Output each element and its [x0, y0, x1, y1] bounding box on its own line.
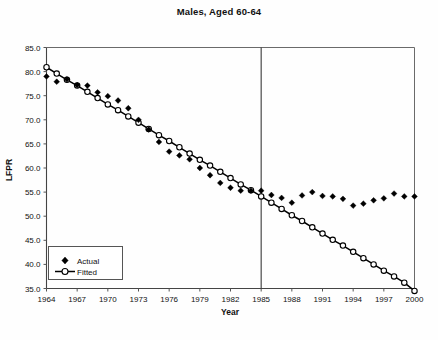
- actual-data-point: [54, 79, 60, 85]
- x-axis-title: Year: [221, 307, 240, 317]
- x-tick-label: 1967: [68, 295, 86, 304]
- x-tick-label: 1985: [252, 295, 270, 304]
- fitted-data-point: [258, 194, 263, 199]
- actual-data-point: [381, 195, 387, 201]
- fitted-data-point: [105, 102, 110, 107]
- y-tick-label: 65.0: [25, 140, 41, 149]
- actual-data-point: [330, 194, 336, 200]
- actual-data-point: [299, 193, 305, 199]
- y-tick-label: 85.0: [25, 44, 41, 53]
- actual-data-point: [156, 139, 162, 145]
- actual-data-point: [44, 74, 50, 80]
- fitted-data-point: [350, 249, 355, 254]
- y-tick-label: 75.0: [25, 92, 41, 101]
- fitted-data-point: [289, 213, 294, 218]
- fitted-data-point: [197, 157, 202, 162]
- chart-container: Males, Aged 60-64 35.040.045.050.055.060…: [0, 0, 438, 340]
- actual-data-point: [268, 192, 274, 198]
- actual-data-point: [187, 156, 193, 162]
- fitted-data-point: [187, 151, 192, 156]
- x-tick-label: 1991: [314, 295, 332, 304]
- fitted-data-point: [177, 145, 182, 150]
- fitted-data-point: [299, 218, 304, 223]
- chart-plot-area: 35.040.045.050.055.060.065.070.075.080.0…: [0, 0, 438, 340]
- legend-label-fitted: Fitted: [77, 268, 97, 277]
- actual-data-point: [228, 185, 234, 191]
- actual-data-point: [371, 197, 377, 203]
- x-tick-label: 1964: [38, 295, 56, 304]
- fitted-data-point: [330, 237, 335, 242]
- fitted-data-point: [54, 71, 59, 76]
- actual-data-point: [207, 172, 213, 178]
- x-tick-label: 1979: [191, 295, 209, 304]
- legend-label-actual: Actual: [77, 257, 99, 266]
- fitted-data-point: [85, 89, 90, 94]
- actual-data-point: [238, 188, 244, 194]
- actual-data-point: [391, 191, 397, 197]
- actual-data-point: [125, 105, 131, 111]
- fitted-data-point: [228, 175, 233, 180]
- x-tick-label: 1997: [375, 295, 393, 304]
- actual-data-point: [105, 93, 111, 99]
- actual-data-point: [340, 196, 346, 202]
- fitted-data-point: [412, 288, 417, 293]
- fitted-data-point: [340, 243, 345, 248]
- y-axis-tick-labels: 35.040.045.050.055.060.065.070.075.080.0…: [25, 44, 41, 294]
- y-axis-title: LFPR: [4, 159, 14, 181]
- x-axis-tick-labels: 1964196719701973197619791982198519881991…: [38, 295, 424, 304]
- fitted-data-point: [402, 280, 407, 285]
- fitted-data-point: [156, 133, 161, 138]
- x-axis: 1964196719701973197619791982198519881991…: [38, 289, 424, 318]
- fitted-data-point: [238, 182, 243, 187]
- actual-data-point: [176, 153, 182, 159]
- actual-data-point: [350, 203, 356, 209]
- y-tick-label: 50.0: [25, 212, 41, 221]
- y-tick-label: 70.0: [25, 116, 41, 125]
- fitted-data-point: [381, 268, 386, 273]
- actual-data-point: [412, 194, 418, 200]
- x-tick-label: 1988: [283, 295, 301, 304]
- fitted-data-point: [115, 107, 120, 112]
- actual-data-point: [401, 194, 407, 200]
- chart-legend[interactable]: Actual Fitted: [49, 247, 123, 280]
- y-tick-label: 55.0: [25, 188, 41, 197]
- fitted-data-point: [310, 225, 315, 230]
- fitted-data-point: [269, 200, 274, 205]
- actual-data-point: [115, 98, 121, 104]
- x-tick-label: 1973: [130, 295, 148, 304]
- actual-data-point: [360, 201, 366, 207]
- series-actual: [44, 74, 418, 209]
- x-tick-label: 1976: [160, 295, 178, 304]
- y-tick-label: 60.0: [25, 164, 41, 173]
- fitted-data-point: [44, 65, 49, 70]
- actual-data-point: [84, 83, 90, 89]
- actual-data-point: [217, 180, 223, 186]
- actual-data-point: [197, 165, 203, 171]
- actual-data-point: [166, 149, 172, 155]
- fitted-data-point: [279, 206, 284, 211]
- fitted-data-point: [166, 138, 171, 143]
- y-tick-label: 35.0: [25, 285, 41, 294]
- actual-data-point: [279, 195, 285, 201]
- actual-data-point: [309, 189, 315, 195]
- x-tick-label: 2000: [406, 295, 424, 304]
- y-tick-label: 80.0: [25, 68, 41, 77]
- actual-data-point: [320, 193, 326, 199]
- x-tick-label: 1994: [344, 295, 362, 304]
- open-circle-icon: [62, 269, 68, 275]
- actual-data-point: [289, 200, 295, 206]
- fitted-data-point: [218, 169, 223, 174]
- y-tick-label: 45.0: [25, 236, 41, 245]
- actual-data-point: [258, 188, 264, 194]
- y-tick-label: 40.0: [25, 260, 41, 269]
- y-axis: 35.040.045.050.055.060.065.070.075.080.0…: [4, 44, 47, 294]
- fitted-data-point: [320, 231, 325, 236]
- fitted-data-point: [361, 255, 366, 260]
- fitted-data-point: [126, 114, 131, 119]
- actual-data-point: [95, 89, 101, 95]
- fitted-data-point: [95, 95, 100, 100]
- fitted-data-point: [391, 274, 396, 279]
- fitted-data-point: [371, 262, 376, 267]
- x-tick-label: 1982: [222, 295, 240, 304]
- fitted-data-point: [207, 163, 212, 168]
